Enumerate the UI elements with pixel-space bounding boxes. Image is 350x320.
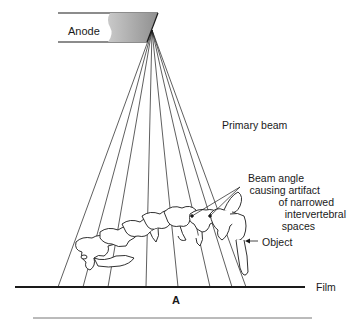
beam-angle-line-2: causing artifact	[240, 184, 348, 196]
anode-label: Anode	[68, 25, 100, 37]
beam-angle-line-5: spaces	[240, 220, 348, 232]
object-arrow	[245, 239, 258, 244]
figure-letter: A	[172, 294, 180, 306]
radiograph-diagram	[0, 0, 350, 320]
primary-beam-label: Primary beam	[222, 119, 287, 131]
object-label: Object	[262, 236, 292, 248]
beam-angle-label: Beam angle causing artifact of narrowed …	[240, 172, 348, 232]
beam-angle-line-1: Beam angle	[240, 172, 348, 184]
beam-angle-line-3: of narrowed	[240, 196, 348, 208]
beam-angle-line-4: intervertebral	[240, 208, 348, 220]
film-label: Film	[316, 281, 336, 293]
